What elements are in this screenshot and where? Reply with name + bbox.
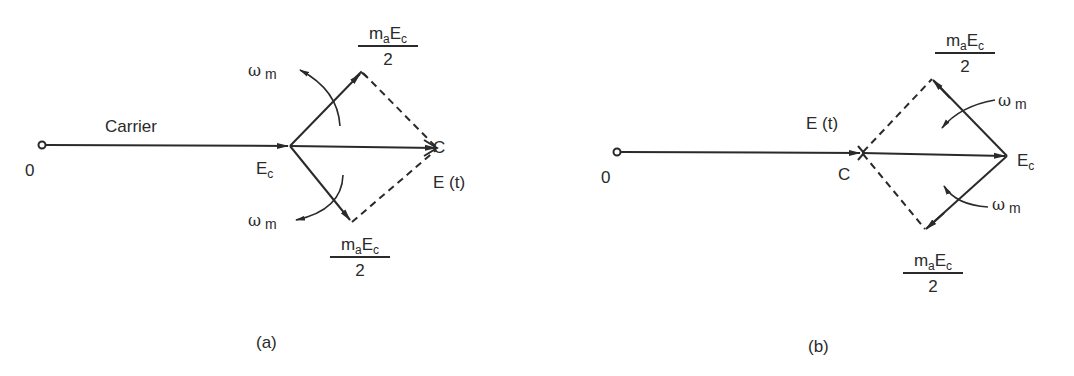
lower-sideband-arrow-b	[926, 213, 944, 229]
resultant-label-b: E (t)	[806, 115, 838, 132]
dashed-lower-a	[352, 150, 436, 222]
rotation-arc-upper-b	[942, 100, 995, 128]
origin-label-a: 0	[25, 162, 34, 179]
lower-sideband-label-b: maEc 2	[903, 252, 963, 295]
resultant-phasor-b	[621, 152, 860, 153]
ec-label-a: Ec	[256, 160, 273, 177]
caption-a: (a)	[256, 334, 277, 351]
carrier-phasor-a	[46, 145, 288, 146]
ec-sub-a: c	[267, 167, 273, 181]
omega-lower-label-a: ωm	[248, 212, 277, 229]
lower-sideband-label-a: maEc 2	[330, 236, 390, 279]
omega-upper-label-a: ωm	[248, 62, 277, 79]
origin-point-b	[614, 149, 621, 156]
panel-b	[614, 79, 1008, 229]
resultant-label-a: E (t)	[433, 174, 465, 191]
dashed-upper-b	[863, 79, 932, 152]
ec-label-b: Ec	[1017, 152, 1034, 169]
caption-b: (b)	[808, 338, 829, 355]
lower-sideband-phasor-a	[290, 146, 350, 220]
c-label-a: C	[433, 139, 445, 156]
upper-sideband-label-b: maEc 2	[935, 32, 995, 75]
c-label-b: C	[838, 166, 850, 183]
upper-sideband-label-a: maEc 2	[358, 25, 418, 68]
panel-a	[39, 70, 438, 222]
carrier-label-a: Carrier	[105, 118, 157, 135]
origin-label-b: 0	[601, 169, 610, 186]
omega-lower-label-b: ωm	[992, 196, 1021, 213]
rotation-arc-lower-b	[944, 186, 988, 207]
rotation-arc-upper-a	[300, 70, 340, 126]
phasor-diagram-canvas	[0, 0, 1074, 376]
omega-upper-label-b: ωm	[998, 92, 1027, 109]
ec-main-a: E	[256, 159, 267, 178]
dashed-lower-b	[863, 154, 925, 229]
carrier-phasor-b	[862, 153, 1005, 156]
upper-sideband-arrow-b	[933, 80, 950, 98]
resultant-phasor-a	[290, 146, 436, 148]
origin-point-a	[39, 142, 46, 149]
upper-sideband-phasor-a	[290, 74, 360, 146]
dashed-upper-a	[363, 73, 436, 147]
